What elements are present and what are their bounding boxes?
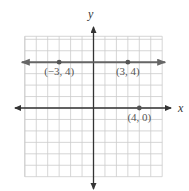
x-axis-label: x bbox=[177, 101, 184, 115]
point-label: (4, 0) bbox=[127, 111, 151, 124]
coordinate-plane: (−3, 4)(3, 4)(4, 0) x y bbox=[0, 0, 189, 191]
data-point bbox=[125, 60, 130, 65]
y-axis-label: y bbox=[87, 7, 94, 21]
point-label: (3, 4) bbox=[116, 65, 140, 78]
data-point bbox=[137, 106, 142, 111]
data-point bbox=[57, 60, 62, 65]
points: (−3, 4)(3, 4)(4, 0) bbox=[44, 60, 151, 124]
axes bbox=[15, 27, 171, 189]
point-label: (−3, 4) bbox=[44, 65, 74, 78]
